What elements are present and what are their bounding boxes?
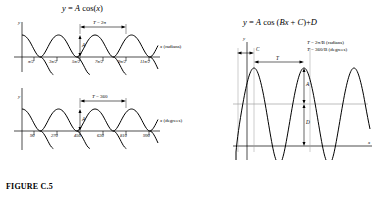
general-period-note-degrees: T = 360/B (degrees) [307, 47, 347, 52]
general-phase-arrow [237, 51, 254, 54]
general-period-label: T [276, 56, 279, 61]
general-x-axis-label: x [368, 140, 370, 145]
general-cosine-graph-svg [0, 0, 379, 201]
general-phase-label: C [256, 47, 259, 52]
general-period-note-degrees-text: = 360/B (degrees) [310, 47, 347, 52]
general-period-arrow [254, 60, 304, 63]
general-period-note-radians: T = 2π/B (radians) [307, 40, 344, 45]
general-y-axis-label: y [243, 36, 245, 41]
figure-caption: FIGURE C.5 [6, 182, 53, 191]
general-amplitude-label: A [306, 82, 309, 87]
general-offset-label: D [306, 120, 310, 125]
general-period-note-radians-text: = 2π/B (radians) [310, 40, 344, 45]
figure-c5: y = A cos(x) [0, 0, 379, 201]
